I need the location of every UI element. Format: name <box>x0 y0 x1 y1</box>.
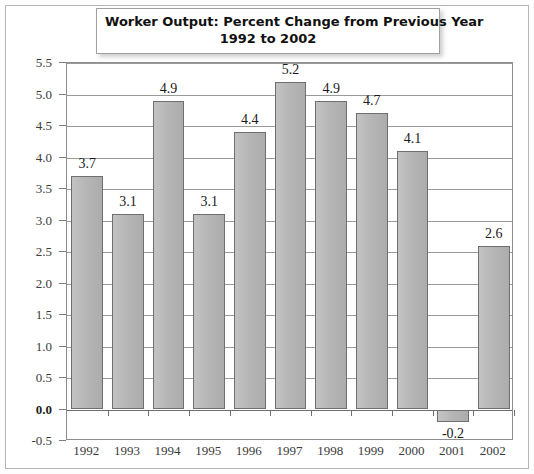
x-axis-tick <box>514 410 515 416</box>
x-axis-tick <box>311 410 312 416</box>
bar-series: 3.73.14.93.14.45.24.94.74.1-0.22.6 <box>67 63 512 439</box>
x-axis-tick <box>108 410 109 416</box>
bar <box>478 246 510 410</box>
x-axis-tick <box>189 410 190 416</box>
y-axis-tick-label: 1.0 <box>4 340 52 353</box>
chart-figure: 5.55.04.54.03.53.02.52.01.51.00.50.0-0.5… <box>0 0 534 474</box>
x-axis-tick <box>148 410 149 416</box>
y-axis-tick <box>59 94 66 95</box>
bar-value-label: 4.9 <box>311 82 352 96</box>
y-axis-tick <box>59 157 66 158</box>
bar <box>397 151 429 409</box>
x-axis-tick-label: 1999 <box>350 444 391 457</box>
bar <box>315 101 347 410</box>
y-axis-tick-label: 0.5 <box>4 371 52 384</box>
x-axis-tick-label: 1996 <box>229 444 270 457</box>
bar-value-label: 4.7 <box>351 94 392 108</box>
x-axis-tick <box>230 410 231 416</box>
y-axis-tick <box>59 251 66 252</box>
x-axis-tick <box>473 410 474 416</box>
x-axis-tick-label: 2001 <box>432 444 473 457</box>
x-axis-tick-label: 1997 <box>269 444 310 457</box>
y-axis-tick <box>59 409 66 410</box>
y-axis-tick <box>59 377 66 378</box>
y-axis-tick-label: 2.0 <box>4 277 52 290</box>
y-axis-tick-label: -0.5 <box>4 434 52 447</box>
bar-value-label: 3.1 <box>108 195 149 209</box>
bar-value-label: 3.1 <box>189 195 230 209</box>
y-axis-tick-label: 4.5 <box>4 119 52 132</box>
bar-value-label: -0.2 <box>433 427 474 441</box>
chart-title: Worker Output: Percent Change from Previ… <box>96 8 440 54</box>
y-axis-tick-label: 4.0 <box>4 151 52 164</box>
bar-value-label: 3.7 <box>67 157 108 171</box>
y-axis-tick <box>59 125 66 126</box>
y-axis-tick <box>59 283 66 284</box>
x-axis-tick-label: 1992 <box>66 444 107 457</box>
bar <box>275 82 307 410</box>
x-axis-tick <box>392 410 393 416</box>
chart-title-line-2: 1992 to 2002 <box>105 31 431 48</box>
x-axis-tick-label: 1994 <box>147 444 188 457</box>
bar <box>193 214 225 409</box>
y-axis-tick-label: 3.5 <box>4 182 52 195</box>
x-axis-tick <box>433 410 434 416</box>
x-axis-tick-label: 1993 <box>107 444 148 457</box>
bar <box>71 176 103 409</box>
x-axis-tick-label: 1995 <box>188 444 229 457</box>
chart-title-line-1: Worker Output: Percent Change from Previ… <box>105 14 431 31</box>
y-axis-tick-label: 5.5 <box>4 56 52 69</box>
bar-value-label: 2.6 <box>473 227 514 241</box>
y-axis-tick-label: 3.0 <box>4 214 52 227</box>
x-axis-tick-label: 2000 <box>391 444 432 457</box>
x-axis-tick-label: 2002 <box>472 444 513 457</box>
y-axis-tick <box>59 440 66 441</box>
bar <box>437 410 469 423</box>
x-axis-tick <box>351 410 352 416</box>
y-axis-tick-label: 0.0 <box>4 403 52 416</box>
y-axis-tick-label: 5.0 <box>4 88 52 101</box>
bar-value-label: 4.4 <box>230 113 271 127</box>
y-axis-tick-label: 1.5 <box>4 308 52 321</box>
x-axis-tick-label: 1998 <box>310 444 351 457</box>
bar-value-label: 5.2 <box>270 63 311 77</box>
bar-value-label: 4.1 <box>392 132 433 146</box>
bar-value-label: 4.9 <box>148 82 189 96</box>
y-axis-tick <box>59 314 66 315</box>
bar <box>356 113 388 409</box>
y-axis: 5.55.04.54.03.53.02.52.01.51.00.50.0-0.5 <box>0 0 66 474</box>
y-axis-tick <box>59 188 66 189</box>
plot-area: 3.73.14.93.14.45.24.94.74.1-0.22.6 <box>66 62 513 440</box>
y-axis-tick <box>59 346 66 347</box>
x-axis-labels: 1992199319941995199619971998199920002001… <box>66 444 513 468</box>
bar <box>234 132 266 409</box>
x-axis-tick <box>270 410 271 416</box>
y-axis-tick <box>59 220 66 221</box>
bar <box>112 214 144 409</box>
y-axis-tick <box>59 62 66 63</box>
bar <box>153 101 185 410</box>
y-axis-tick-label: 2.5 <box>4 245 52 258</box>
